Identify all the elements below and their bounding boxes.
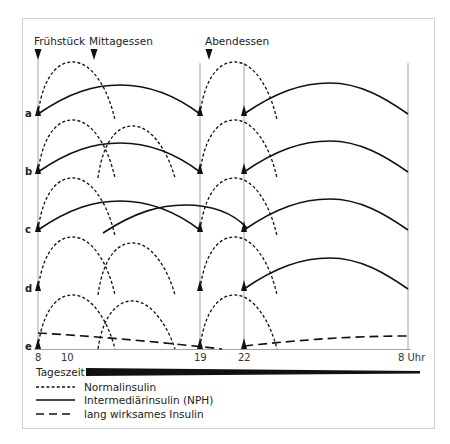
tick-label-8: 8 [35, 352, 41, 363]
legend-label-normal: Normalinsulin [84, 381, 156, 393]
tick-label-22: 22 [238, 352, 251, 363]
row-label-d: d [25, 283, 32, 294]
meal-label-dinner: Abendessen [205, 35, 269, 47]
insulin-regimen-diagram: Frühstück Mittagessen Abendessen a b c d… [0, 0, 450, 444]
tick-label-10: 10 [61, 352, 74, 363]
tick-label-8-uhr: 8 Uhr [398, 352, 426, 363]
meal-label-lunch: Mittagessen [89, 35, 153, 47]
daytime-label: Tageszeit [35, 366, 85, 378]
meal-label-breakfast: Frühstück [34, 35, 86, 47]
legend-label-nph: Intermediärinsulin (NPH) [84, 394, 213, 406]
legend-label-long: lang wirksames Insulin [84, 408, 204, 420]
row-label-b: b [25, 166, 32, 177]
row-label-c: c [25, 224, 31, 235]
row-label-a: a [25, 108, 32, 119]
tick-label-19: 19 [194, 352, 207, 363]
row-label-e: e [25, 341, 32, 352]
